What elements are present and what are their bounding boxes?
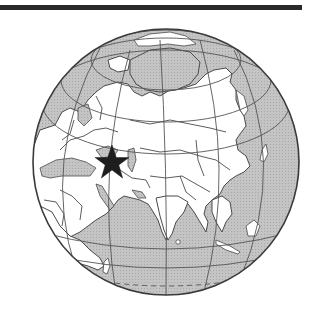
globe-svg — [0, 0, 322, 316]
sri-lanka — [176, 240, 180, 244]
globe-map — [0, 0, 322, 316]
